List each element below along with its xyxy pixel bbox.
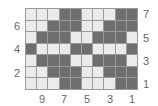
chart-cell: [116, 44, 126, 55]
chart-cell: [116, 67, 126, 78]
chart-cell: [71, 9, 81, 20]
chart-cell: [104, 32, 114, 43]
chart-cell: [71, 67, 81, 78]
chart-cell: [60, 32, 70, 43]
chart-cell: [82, 44, 92, 55]
chart-cell: [116, 55, 126, 66]
chart-cell: [93, 78, 103, 89]
chart-cell: [60, 9, 70, 20]
chart-cell: [104, 67, 114, 78]
chart-cell: [71, 21, 81, 32]
chart-cell: [48, 67, 58, 78]
col-label-9: 9: [39, 94, 45, 105]
chart-cell: [82, 32, 92, 43]
chart-cell: [26, 55, 36, 66]
chart-cell: [116, 78, 126, 89]
row-label-6: 6: [14, 21, 20, 32]
chart-cell: [82, 55, 92, 66]
chart-cell: [127, 9, 137, 20]
chart-cell: [26, 44, 36, 55]
chart-cell: [37, 67, 47, 78]
chart-cell: [37, 78, 47, 89]
row-label-4: 4: [14, 44, 20, 55]
chart-cell: [71, 44, 81, 55]
chart-cell: [60, 55, 70, 66]
chart-cell: [48, 32, 58, 43]
chart-cell: [37, 9, 47, 20]
chart-cell: [26, 67, 36, 78]
chart-cell: [93, 44, 103, 55]
chart-cell: [26, 32, 36, 43]
chart-cell: [127, 67, 137, 78]
chart-cell: [48, 44, 58, 55]
chart-cell: [116, 21, 126, 32]
chart-cell: [82, 21, 92, 32]
chart-cell: [93, 32, 103, 43]
chart-cell: [48, 78, 58, 89]
col-label-1: 1: [129, 94, 135, 105]
chart-cell: [71, 32, 81, 43]
chart-cell: [60, 21, 70, 32]
chart-cell: [48, 21, 58, 32]
chart-cell: [60, 67, 70, 78]
chart-cell: [116, 9, 126, 20]
knitting-chart-grid: [25, 8, 138, 90]
col-label-7: 7: [61, 94, 67, 105]
chart-cell: [71, 55, 81, 66]
col-label-5: 5: [84, 94, 90, 105]
chart-cell: [48, 9, 58, 20]
chart-cell: [37, 32, 47, 43]
chart-cell: [127, 44, 137, 55]
chart-cell: [82, 78, 92, 89]
row-label-5: 5: [143, 33, 149, 44]
chart-cell: [26, 9, 36, 20]
chart-cell: [60, 78, 70, 89]
chart-cell: [48, 55, 58, 66]
chart-cell: [127, 21, 137, 32]
row-label-7: 7: [143, 9, 149, 20]
chart-cell: [127, 78, 137, 89]
chart-cell: [127, 32, 137, 43]
chart-cell: [37, 44, 47, 55]
chart-cell: [82, 67, 92, 78]
chart-cell: [104, 9, 114, 20]
chart-cell: [93, 9, 103, 20]
chart-cell: [26, 78, 36, 89]
chart-cell: [116, 32, 126, 43]
chart-cell: [93, 67, 103, 78]
chart-cell: [104, 21, 114, 32]
chart-cell: [104, 55, 114, 66]
row-label-2: 2: [14, 68, 20, 79]
row-label-1: 1: [143, 79, 149, 90]
chart-cell: [93, 55, 103, 66]
chart-cell: [37, 55, 47, 66]
chart-cell: [26, 21, 36, 32]
chart-cell: [71, 78, 81, 89]
col-label-3: 3: [107, 94, 113, 105]
chart-cell: [82, 9, 92, 20]
row-label-3: 3: [143, 56, 149, 67]
chart-cell: [37, 21, 47, 32]
chart-cell: [93, 21, 103, 32]
chart-cell: [104, 44, 114, 55]
chart-cell: [60, 44, 70, 55]
chart-cell: [104, 78, 114, 89]
chart-cell: [127, 55, 137, 66]
